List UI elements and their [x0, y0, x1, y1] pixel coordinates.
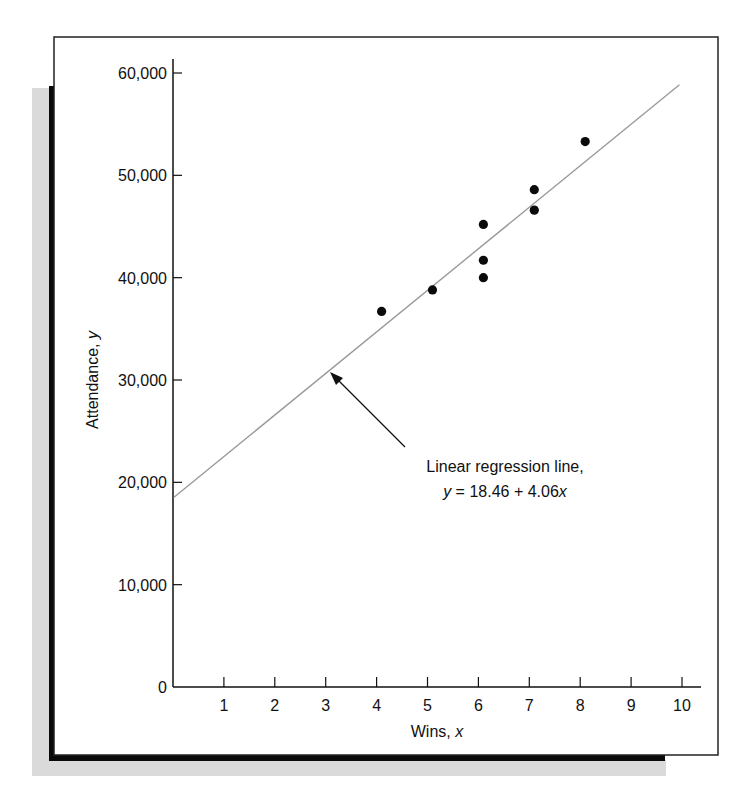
- annotation-line1: Linear regression line,: [426, 458, 583, 475]
- data-point: [530, 185, 539, 194]
- data-point: [479, 220, 488, 229]
- x-tick-label: 10: [673, 697, 691, 714]
- data-point: [479, 273, 488, 282]
- x-tick-label: 2: [270, 697, 279, 714]
- y-tick-label: 10,000: [118, 577, 167, 594]
- x-tick-label: 3: [321, 697, 330, 714]
- scatter-figure: 010,00020,00030,00040,00050,00060,000 12…: [0, 0, 754, 806]
- data-point: [530, 206, 539, 215]
- y-tick-label: 60,000: [118, 65, 167, 82]
- y-tick-label: 40,000: [118, 270, 167, 287]
- y-tick-label: 0: [158, 679, 167, 696]
- x-tick-label: 4: [372, 697, 381, 714]
- annotation-equation: y = 18.46 + 4.06x: [442, 483, 568, 500]
- chart-canvas: 010,00020,00030,00040,00050,00060,000 12…: [0, 0, 754, 806]
- x-tick-label: 7: [525, 697, 534, 714]
- y-tick-label: 20,000: [118, 474, 167, 491]
- y-axis-title: Attendance, y: [84, 330, 101, 429]
- y-tick-label: 50,000: [118, 167, 167, 184]
- x-axis-title: Wins, x: [411, 723, 464, 740]
- data-point: [377, 307, 386, 316]
- data-point: [581, 137, 590, 146]
- x-tick-label: 1: [219, 697, 228, 714]
- data-point: [479, 256, 488, 265]
- x-tick-label: 8: [576, 697, 585, 714]
- plot-frame: [54, 37, 718, 755]
- y-tick-label: 30,000: [118, 372, 167, 389]
- x-tick-label: 5: [423, 697, 432, 714]
- x-tick-label: 9: [627, 697, 636, 714]
- data-point: [428, 285, 437, 294]
- x-tick-label: 6: [474, 697, 483, 714]
